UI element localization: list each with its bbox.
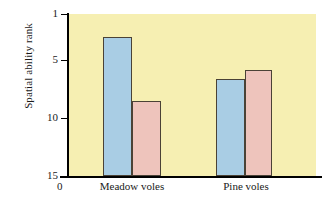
x-category-label-pine-voles: Pine voles [196, 180, 296, 192]
y-axis-line [67, 13, 69, 177]
y-tick-label-15: 15 [18, 170, 58, 181]
x-axis-origin-label: 0 [57, 180, 63, 192]
bar-pine-voles-pink [245, 70, 272, 176]
x-axis-line [60, 176, 322, 178]
y-axis-label: Spatial ability rank [22, 0, 34, 151]
y-tick-15 [61, 176, 67, 177]
cropped-caption-remnant [0, 0, 326, 5]
y-tick-label-5: 5 [18, 54, 58, 65]
bar-meadow-voles-blue [103, 37, 132, 176]
y-tick-label-10: 10 [18, 112, 58, 123]
y-tick-label-1: 1 [18, 8, 58, 19]
y-tick-1 [61, 14, 67, 15]
bar-pine-voles-blue [216, 79, 245, 176]
y-tick-5 [61, 60, 67, 61]
y-tick-10 [61, 118, 67, 119]
x-category-label-meadow-voles: Meadow voles [82, 180, 182, 192]
chart-figure: Spatial ability rank 1 5 10 15 Meadow vo… [0, 0, 326, 202]
bar-meadow-voles-pink [132, 101, 161, 176]
